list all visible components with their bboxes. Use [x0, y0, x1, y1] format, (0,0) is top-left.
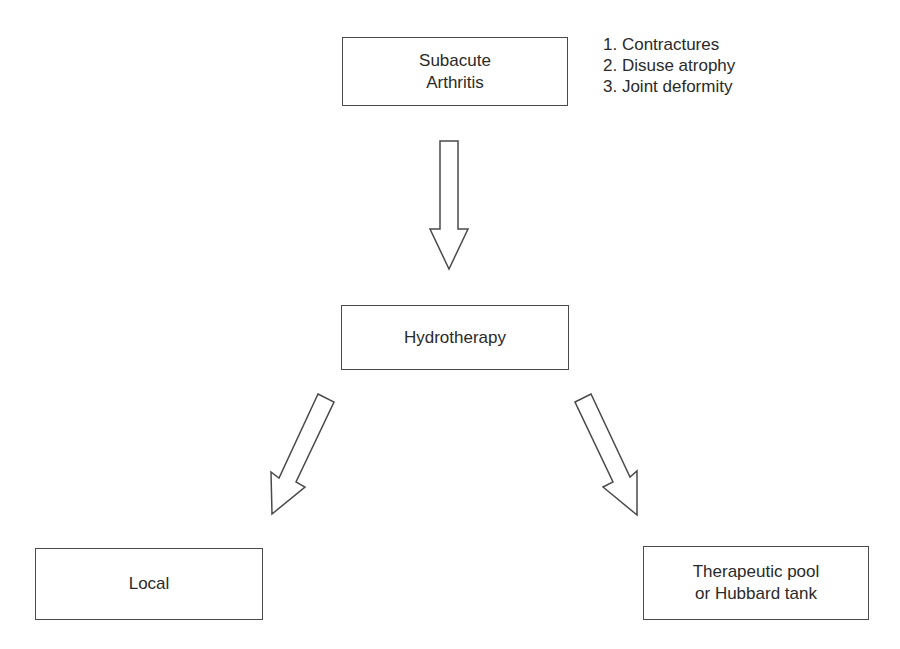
arrow-down-icon [430, 141, 468, 269]
complications-list: 1. Contractures 2. Disuse atrophy 3. Joi… [603, 34, 735, 97]
node-subacute-line1: Subacute [419, 50, 491, 72]
node-therapeutic-pool: Therapeutic pool or Hubbard tank [643, 546, 869, 620]
arrow-down-left-icon [271, 394, 334, 514]
node-local: Local [35, 548, 263, 620]
node-local-label: Local [129, 573, 170, 595]
node-subacute-line2: Arthritis [426, 72, 484, 94]
node-subacute-arthritis: Subacute Arthritis [342, 37, 568, 106]
complication-item: 2. Disuse atrophy [603, 55, 735, 76]
node-pool-line1: Therapeutic pool [693, 561, 820, 583]
complication-item: 1. Contractures [603, 34, 735, 55]
arrow-down-right-icon [575, 394, 637, 515]
complication-item: 3. Joint deformity [603, 76, 735, 97]
node-hydrotherapy-label: Hydrotherapy [404, 327, 506, 349]
node-pool-line2: or Hubbard tank [695, 583, 817, 605]
node-hydrotherapy: Hydrotherapy [341, 305, 569, 370]
